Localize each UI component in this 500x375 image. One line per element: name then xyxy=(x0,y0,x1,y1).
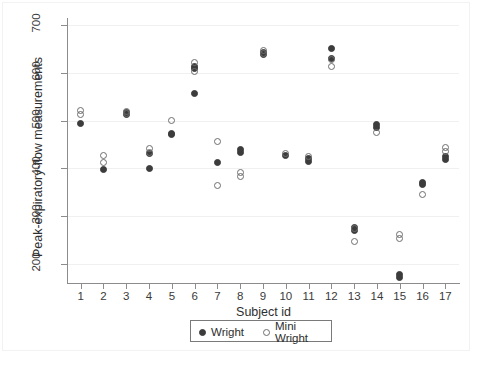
data-point xyxy=(282,150,289,157)
x-axis-tick xyxy=(263,283,264,289)
x-axis-tick xyxy=(195,283,196,289)
data-point xyxy=(146,145,153,152)
x-axis-tick xyxy=(400,283,401,289)
x-axis-tick-label: 7 xyxy=(205,290,229,302)
data-point xyxy=(260,47,267,54)
y-axis-tick-label: 500 xyxy=(30,99,42,139)
x-axis-tick xyxy=(81,283,82,289)
data-point xyxy=(146,165,153,172)
x-axis-tick xyxy=(240,283,241,289)
x-axis-tick xyxy=(172,283,173,289)
data-point xyxy=(237,169,244,176)
data-point xyxy=(328,45,335,52)
data-point xyxy=(100,152,107,159)
data-point xyxy=(351,238,358,245)
legend-entry-wright: Wright xyxy=(199,324,244,340)
y-axis-tick xyxy=(61,216,67,217)
x-axis-tick-label: 16 xyxy=(411,290,435,302)
x-axis-tick-label: 3 xyxy=(114,290,138,302)
y-axis-tick-label: 400 xyxy=(30,146,42,186)
x-axis-tick xyxy=(217,283,218,289)
x-axis-tick-label: 15 xyxy=(388,290,412,302)
x-axis-tick-label: 14 xyxy=(365,290,389,302)
data-point xyxy=(237,146,244,153)
x-axis-tick-label: 6 xyxy=(183,290,207,302)
gridline xyxy=(67,25,459,26)
gridline xyxy=(67,264,459,265)
x-axis-tick xyxy=(423,283,424,289)
x-axis-tick xyxy=(309,283,310,289)
data-point xyxy=(77,107,84,114)
legend-entry-mini-wright: Mini Wright xyxy=(263,324,331,340)
gridline xyxy=(67,168,459,169)
x-axis-tick-label: 11 xyxy=(297,290,321,302)
x-axis-tick xyxy=(126,283,127,289)
data-point xyxy=(419,179,426,186)
y-axis-tick xyxy=(61,264,67,265)
x-axis-tick-label: 9 xyxy=(251,290,275,302)
x-axis-tick xyxy=(354,283,355,289)
x-axis-tick-label: 17 xyxy=(433,290,457,302)
x-axis-tick-label: 4 xyxy=(137,290,161,302)
y-axis-tick-label: 700 xyxy=(30,3,42,43)
gridline xyxy=(67,121,459,122)
y-axis-tick xyxy=(61,25,67,26)
y-axis-tick xyxy=(61,121,67,122)
data-point xyxy=(351,225,358,232)
data-point xyxy=(328,63,335,70)
filled-circle-icon xyxy=(199,329,206,336)
x-axis-tick-label: 1 xyxy=(69,290,93,302)
data-point xyxy=(191,59,198,66)
legend-label: Mini Wright xyxy=(275,320,331,344)
gridline xyxy=(67,73,459,74)
y-axis-tick xyxy=(61,168,67,169)
x-axis-tick xyxy=(103,283,104,289)
open-circle-icon xyxy=(263,329,270,336)
x-axis-tick-label: 13 xyxy=(342,290,366,302)
y-axis-tick-label: 200 xyxy=(30,242,42,282)
y-axis-tick xyxy=(61,73,67,74)
x-axis-tick xyxy=(331,283,332,289)
x-axis-tick-label: 8 xyxy=(228,290,252,302)
x-axis-tick xyxy=(377,283,378,289)
x-axis-tick xyxy=(286,283,287,289)
data-point xyxy=(123,108,130,115)
x-axis-title: Subject id xyxy=(67,305,460,319)
gridline xyxy=(67,216,459,217)
x-axis-tick-label: 5 xyxy=(160,290,184,302)
chart-legend: Wright Mini Wright xyxy=(190,320,332,342)
data-point xyxy=(168,117,175,124)
chart-figure: Peak-expiratory-flow measurements Subjec… xyxy=(0,0,500,375)
x-axis-tick-label: 10 xyxy=(274,290,298,302)
data-point xyxy=(214,182,221,189)
data-point xyxy=(328,56,335,63)
x-axis-tick-label: 2 xyxy=(91,290,115,302)
x-axis-tick xyxy=(445,283,446,289)
y-axis-tick-label: 600 xyxy=(30,51,42,91)
legend-label: Wright xyxy=(211,326,244,338)
data-point xyxy=(168,130,175,137)
data-point xyxy=(214,138,221,145)
data-point xyxy=(419,191,426,198)
data-point xyxy=(191,68,198,75)
y-axis-tick-label: 300 xyxy=(30,194,42,234)
y-axis-line xyxy=(67,18,68,284)
x-axis-tick-label: 12 xyxy=(319,290,343,302)
x-axis-tick xyxy=(149,283,150,289)
